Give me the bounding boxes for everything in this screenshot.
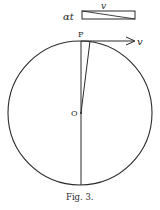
label-v-arrow: v [137,36,143,47]
velocity-arrow [81,37,135,45]
velocity-triangle-box [82,11,135,19]
slanted-radius [81,41,90,113]
diagram: αt v v P O Fig. 3. [0,0,160,210]
figure-caption: Fig. 3. [66,192,94,202]
label-O: O [71,109,78,118]
label-P: P [78,30,84,39]
center-dot [80,112,82,114]
label-v-top: v [101,1,106,11]
label-alpha-t: αt [63,11,75,22]
